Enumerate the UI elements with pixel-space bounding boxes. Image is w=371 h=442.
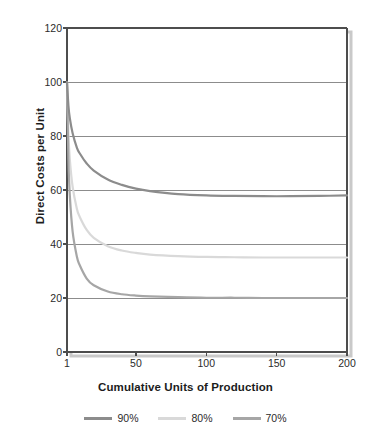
y-tick-label: 60: [22, 184, 62, 196]
legend-line-swatch: [84, 417, 112, 420]
y-tick-label: 80: [22, 130, 62, 142]
y-axis-tick-labels: 020406080100120: [18, 0, 62, 442]
x-tick-label: 200: [322, 357, 371, 369]
x-axis-tick-labels: 150100150200: [0, 357, 371, 373]
x-tick-label: 100: [181, 357, 231, 369]
legend-line-swatch: [158, 417, 186, 420]
legend-label: 80%: [191, 412, 212, 424]
legend-label: 70%: [266, 412, 287, 424]
x-tick-label: 150: [252, 357, 302, 369]
legend-label: 90%: [117, 412, 138, 424]
learning-curve-chart: Direct Costs per Unit Cumulative Units o…: [0, 0, 371, 442]
legend-item[interactable]: 70%: [233, 412, 287, 424]
y-tick-label: 20: [22, 292, 62, 304]
y-tick-label: 40: [22, 238, 62, 250]
legend-item[interactable]: 80%: [158, 412, 212, 424]
chart-legend: 90%80%70%: [0, 412, 371, 424]
y-tick-label: 120: [22, 22, 62, 34]
x-tick-label: 1: [42, 357, 92, 369]
legend-item[interactable]: 90%: [84, 412, 138, 424]
y-tick-label: 100: [22, 76, 62, 88]
x-tick-label: 50: [111, 357, 161, 369]
legend-line-swatch: [233, 417, 261, 420]
